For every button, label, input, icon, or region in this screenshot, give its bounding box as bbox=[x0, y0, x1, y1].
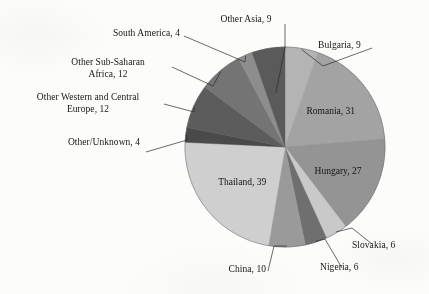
pie-label-other-asia: Other Asia, 9 bbox=[200, 14, 292, 26]
pie-slice-thailand bbox=[185, 142, 285, 245]
pie-chart-figure: Romania, 31Hungary, 27Thailand, 39 Other… bbox=[0, 0, 429, 294]
pie-label-romania: Romania, 31 bbox=[307, 106, 356, 116]
leader-line-other-wc-europe bbox=[164, 104, 195, 112]
pie-label-nigeria: Nigeria, 6 bbox=[320, 262, 392, 274]
leader-line-china bbox=[268, 246, 287, 271]
pie-label-south-america: South America, 4 bbox=[52, 28, 180, 40]
leader-line-south-america bbox=[184, 36, 246, 62]
leader-line-other-unknown bbox=[146, 135, 187, 152]
pie-label-hungary: Hungary, 27 bbox=[315, 166, 362, 176]
pie-label-slovakia: Slovakia, 6 bbox=[352, 240, 428, 252]
pie-slices-group bbox=[185, 47, 386, 248]
pie-label-china: China, 10 bbox=[196, 264, 266, 276]
pie-label-other-sub-saharan-africa: Other Sub-Saharan Africa, 12 bbox=[48, 57, 168, 80]
pie-label-other-unknown: Other/Unknown, 4 bbox=[18, 137, 140, 149]
pie-label-bulgaria: Bulgaria, 9 bbox=[318, 40, 426, 52]
pie-label-other-western-central-europe: Other Western and Central Europe, 12 bbox=[8, 92, 168, 115]
pie-label-thailand: Thailand, 39 bbox=[218, 177, 266, 187]
